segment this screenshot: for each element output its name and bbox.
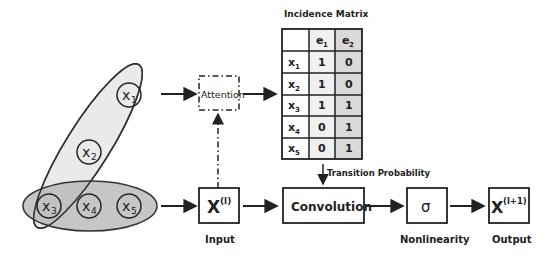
output-caption: Output bbox=[492, 234, 532, 245]
svg-text:1: 1 bbox=[131, 95, 137, 105]
svg-text:5: 5 bbox=[295, 149, 300, 157]
svg-text:x: x bbox=[82, 144, 90, 160]
svg-text:0: 0 bbox=[318, 121, 326, 134]
svg-text:(l+1): (l+1) bbox=[503, 196, 527, 206]
svg-text:1: 1 bbox=[318, 99, 326, 112]
svg-text:2: 2 bbox=[295, 85, 300, 93]
hypergraph-convolution-diagram: x 1 x 2 x 3 x 4 x 5 Attention Incidence … bbox=[0, 0, 550, 256]
input-caption: Input bbox=[205, 234, 235, 245]
svg-text:0: 0 bbox=[345, 56, 353, 69]
attention-label: Attention bbox=[201, 89, 245, 100]
svg-text:1: 1 bbox=[323, 41, 328, 49]
svg-text:0: 0 bbox=[318, 142, 326, 155]
svg-text:3: 3 bbox=[295, 106, 300, 114]
incidence-matrix-title: Incidence Matrix bbox=[284, 9, 369, 19]
svg-text:1: 1 bbox=[345, 99, 353, 112]
nonlinearity-caption: Nonlinearity bbox=[400, 234, 470, 245]
svg-text:3: 3 bbox=[51, 206, 57, 216]
svg-text:1: 1 bbox=[345, 121, 353, 134]
svg-text:1: 1 bbox=[345, 142, 353, 155]
incidence-matrix-table: e 1 e 2 x 1 1 0 x 2 1 0 x 3 1 1 x 4 0 1 … bbox=[282, 29, 362, 159]
svg-text:x: x bbox=[122, 87, 130, 103]
svg-text:x: x bbox=[122, 198, 130, 214]
svg-text:Convolution: Convolution bbox=[291, 200, 372, 214]
svg-text:X: X bbox=[207, 197, 220, 217]
svg-text:x: x bbox=[42, 198, 50, 214]
svg-text:2: 2 bbox=[349, 41, 354, 49]
svg-text:2: 2 bbox=[91, 152, 97, 162]
svg-text:x: x bbox=[82, 198, 90, 214]
svg-text:σ: σ bbox=[421, 198, 431, 216]
svg-text:1: 1 bbox=[318, 56, 326, 69]
svg-text:5: 5 bbox=[131, 206, 137, 216]
svg-text:(l): (l) bbox=[220, 196, 231, 206]
svg-text:1: 1 bbox=[318, 78, 326, 91]
svg-text:1: 1 bbox=[295, 63, 300, 71]
svg-text:4: 4 bbox=[295, 128, 300, 136]
transition-label: Transition Probability bbox=[327, 168, 431, 178]
svg-text:4: 4 bbox=[91, 206, 97, 216]
svg-text:0: 0 bbox=[345, 78, 353, 91]
